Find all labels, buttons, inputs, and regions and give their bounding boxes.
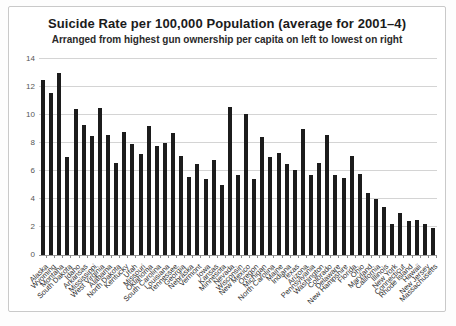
x-axis-labels: AlaskaWyomingMontanaSouth DakotaIdahoArk… bbox=[39, 255, 437, 317]
bar-vermont bbox=[195, 164, 199, 255]
gridline-y14 bbox=[39, 58, 437, 59]
bar-maine bbox=[277, 153, 281, 255]
bar-north-carolina bbox=[268, 157, 272, 255]
bar-new-hampshire bbox=[342, 178, 346, 255]
y-axis-label-8: 8 bbox=[13, 139, 35, 147]
bar-georgia bbox=[179, 156, 183, 255]
y-axis-label-14: 14 bbox=[13, 55, 35, 63]
bar-new-york bbox=[390, 224, 394, 255]
bar-california bbox=[374, 199, 378, 255]
bar-texas bbox=[293, 170, 297, 255]
bar-iowa bbox=[204, 179, 208, 255]
chart-card: Suicide Rate per 100,000 Population (ave… bbox=[8, 6, 446, 312]
bar-montana bbox=[57, 73, 61, 255]
bar-new-jersey bbox=[423, 224, 427, 255]
bar-massachusetts bbox=[431, 228, 435, 255]
bar-mississippi bbox=[90, 136, 94, 255]
bar-michigan bbox=[260, 137, 264, 255]
bar-hawaii bbox=[415, 220, 419, 255]
y-axis-label-0: 0 bbox=[13, 251, 35, 259]
bar-south-carolina bbox=[155, 146, 159, 255]
bar-tennessee bbox=[171, 133, 175, 255]
y-axis-label-6: 6 bbox=[13, 167, 35, 175]
y-axis-label-10: 10 bbox=[13, 111, 35, 119]
bar-west-virginia bbox=[98, 108, 102, 255]
bar-alabama bbox=[106, 135, 110, 255]
bar-louisiana bbox=[163, 143, 167, 255]
y-axis-label-4: 4 bbox=[13, 195, 35, 203]
bar-oklahoma bbox=[147, 126, 151, 255]
chart-header: Suicide Rate per 100,000 Population (ave… bbox=[9, 7, 445, 45]
bar-wisconsin bbox=[236, 175, 240, 255]
bar-arizona bbox=[301, 129, 305, 255]
chart-subtitle: Arranged from highest gun ownership per … bbox=[9, 34, 445, 45]
bar-wyoming bbox=[49, 93, 53, 255]
bar-arkansas bbox=[82, 125, 86, 255]
bar-south-dakota bbox=[65, 157, 69, 255]
bar-ohio bbox=[358, 174, 362, 255]
bar-minnesota bbox=[220, 185, 224, 255]
plot-wrap: 02468101214 AlaskaWyomingMontanaSouth Da… bbox=[39, 59, 437, 255]
bar-new-mexico bbox=[244, 114, 248, 255]
bar-delaware bbox=[333, 175, 337, 255]
bar-nevada bbox=[228, 107, 232, 255]
bar-colorado bbox=[325, 135, 329, 255]
bar-missouri bbox=[139, 154, 143, 255]
bar-kansas bbox=[212, 160, 216, 255]
bar-florida bbox=[350, 156, 354, 255]
bar-pennsylvania bbox=[309, 175, 313, 255]
chart-title: Suicide Rate per 100,000 Population (ave… bbox=[9, 16, 445, 31]
bar-washington bbox=[317, 163, 321, 255]
bar-alaska bbox=[41, 80, 45, 255]
bar-oregon bbox=[252, 179, 256, 255]
bar-maryland bbox=[366, 193, 370, 255]
y-axis-label-12: 12 bbox=[13, 83, 35, 91]
bar-indiana bbox=[285, 164, 289, 255]
bar-rhode-island bbox=[407, 221, 411, 255]
gridline-y12 bbox=[39, 86, 437, 87]
bar-connecticut bbox=[398, 213, 402, 255]
plot-area: 02468101214 bbox=[39, 59, 437, 256]
bar-utah bbox=[130, 144, 134, 255]
bar-nebraska bbox=[187, 177, 191, 255]
bar-illinois bbox=[382, 207, 386, 255]
bar-kentucky bbox=[122, 132, 126, 255]
y-axis-label-2: 2 bbox=[13, 223, 35, 231]
bar-idaho bbox=[74, 109, 78, 255]
bar-north-dakota bbox=[114, 163, 118, 255]
